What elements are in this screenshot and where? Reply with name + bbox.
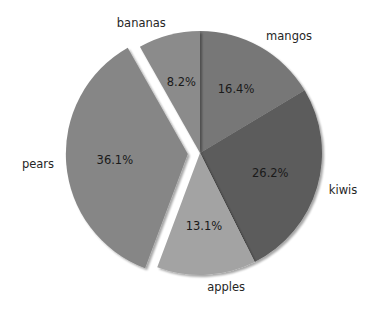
- percent-label-apples: 13.1%: [186, 219, 223, 233]
- category-label-mangos: mangos: [266, 29, 312, 43]
- percent-label-pears: 36.1%: [97, 153, 134, 167]
- percent-label-mangos: 16.4%: [218, 82, 255, 96]
- percent-label-bananas: 8.2%: [167, 75, 196, 89]
- pie-chart: 16.4%26.2%13.1%36.1%8.2% mangoskiwisappl…: [0, 0, 373, 309]
- category-label-apples: apples: [207, 280, 245, 294]
- percent-label-kiwis: 26.2%: [252, 166, 289, 180]
- category-label-kiwis: kiwis: [329, 183, 357, 197]
- category-label-pears: pears: [22, 157, 54, 171]
- category-label-bananas: bananas: [117, 16, 166, 30]
